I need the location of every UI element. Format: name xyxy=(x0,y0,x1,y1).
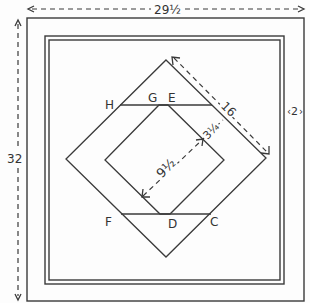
point-label-e: E xyxy=(168,91,176,105)
border-label-close: › xyxy=(299,106,303,117)
point-label-f: F xyxy=(105,215,112,229)
point-label-g: G xyxy=(148,91,157,105)
diagram-svg: 29½ 32 ‹ 2 › 16 3¼ 9½ xyxy=(0,0,310,303)
border-label: 2 xyxy=(291,105,298,118)
quilt-diagram: 29½ 32 ‹ 2 › 16 3¼ 9½ xyxy=(0,0,310,303)
point-label-c: C xyxy=(210,215,218,229)
diamond-side-label: 16 xyxy=(218,99,239,120)
arrow-right-icon xyxy=(298,6,304,12)
point-label-h: H xyxy=(105,98,114,112)
width-label: 29½ xyxy=(154,3,181,17)
inner-side-label: 9½ xyxy=(153,155,178,180)
arrow-upleft-icon xyxy=(172,57,180,65)
height-label: 32 xyxy=(7,152,22,166)
point-label-d: D xyxy=(168,217,177,231)
